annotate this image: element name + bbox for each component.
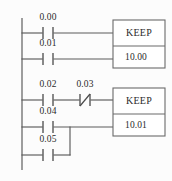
rung-1 bbox=[22, 27, 113, 39]
contact-label-0-00: 0.00 bbox=[39, 13, 56, 23]
keep-block-1-operand: 10.00 bbox=[125, 53, 147, 63]
rung-5 bbox=[22, 149, 70, 161]
contact-label-0-02: 0.02 bbox=[39, 80, 56, 90]
rung-3 bbox=[22, 94, 113, 106]
contact-label-0-04: 0.04 bbox=[39, 107, 56, 117]
contact-label-0-03: 0.03 bbox=[76, 80, 93, 90]
keep-block-1-title: KEEP bbox=[126, 28, 152, 38]
rung-2 bbox=[22, 53, 113, 65]
rung-4 bbox=[22, 121, 113, 133]
keep-block-2-title: KEEP bbox=[126, 96, 152, 106]
contact-label-0-05: 0.05 bbox=[39, 135, 56, 145]
ladder-diagram-canvas: 0.00 0.01 0.02 0.03 0.04 0.05 KEEP 10.00… bbox=[0, 0, 172, 181]
keep-block-2-operand: 10.01 bbox=[125, 121, 147, 131]
contact-0-03-slash bbox=[80, 94, 90, 106]
contact-label-0-01: 0.01 bbox=[39, 39, 56, 49]
